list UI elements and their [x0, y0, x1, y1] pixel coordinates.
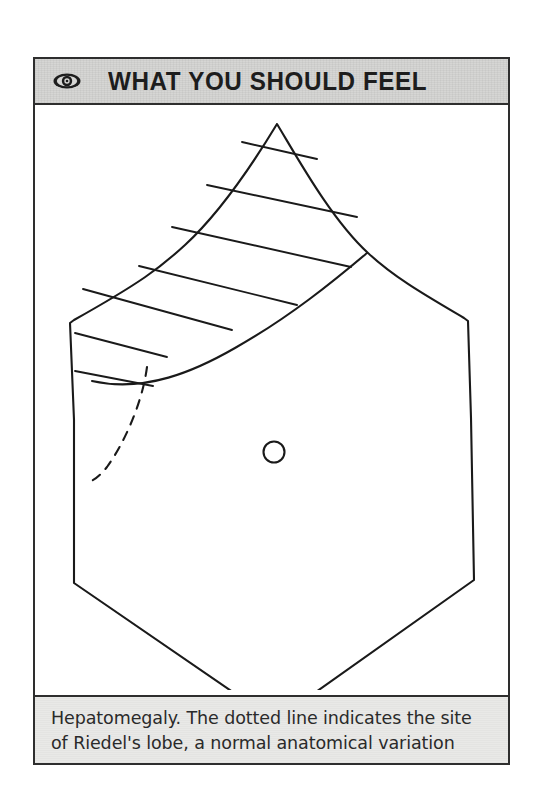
eye-icon	[52, 71, 82, 91]
figure-caption-band: Hepatomegaly. The dotted line indicates …	[35, 695, 508, 763]
figure-header-band: WHAT YOU SHOULD FEEL	[35, 59, 508, 105]
liver-hatching	[75, 142, 357, 386]
figure-header-title: WHAT YOU SHOULD FEEL	[108, 67, 427, 96]
illustration-panel	[35, 105, 508, 695]
umbilicus-marker	[264, 442, 285, 463]
figure-caption-text: Hepatomegaly. The dotted line indicates …	[51, 706, 492, 756]
torso-outline	[70, 124, 474, 690]
hatch-line	[139, 266, 297, 305]
hatch-line	[242, 142, 317, 159]
hatch-line	[207, 185, 357, 217]
anatomy-diagram	[35, 105, 508, 690]
hatch-line	[172, 227, 351, 267]
hatch-line	[75, 333, 167, 357]
hatch-line	[83, 289, 232, 330]
figure-box: WHAT YOU SHOULD FEEL	[33, 57, 510, 765]
liver-outline	[92, 253, 367, 384]
